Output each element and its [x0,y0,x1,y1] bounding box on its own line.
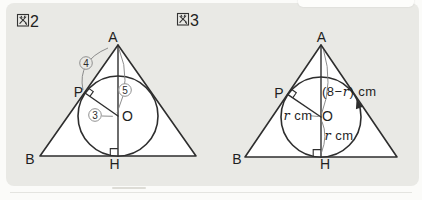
zu-kanji-icon [18,15,29,27]
circled-number-4: 4 [80,57,93,70]
circled-number-3: 3 [89,109,102,122]
figure2-diagram: 4 5 3 A P O B H [25,29,196,172]
vertex-label-b: B [232,151,241,167]
figure3-number: 3 [190,12,199,29]
textbook-geometry-panel: 2 4 5 3 A P [0,0,422,200]
vertex-label-p: P [274,85,283,101]
svg-text:5: 5 [122,85,128,96]
measure-oh-label: r cm [325,128,354,143]
vertex-label-p: P [74,84,83,100]
vertex-label-b: B [25,151,34,167]
zu-kanji-icon [178,14,189,26]
figures-drawing: 2 4 5 3 A P [0,0,422,200]
circled-number-5: 5 [119,84,132,97]
figure2-number: 2 [30,13,39,30]
measure-op-label: r cm [284,108,313,123]
vertex-label-o: O [322,108,333,124]
vertex-label-h: H [109,156,119,172]
figure3-diagram: (8−r) cm r cm r cm A P O B H [232,29,397,173]
svg-text:4: 4 [83,58,89,69]
figure2-caption: 2 [18,13,40,30]
figure3-caption: 3 [178,12,200,29]
svg-text:3: 3 [92,110,98,121]
vertex-label-a: A [108,29,118,45]
measure-ao-label: (8−r) cm [322,84,377,99]
vertex-label-h: H [320,156,330,172]
vertex-label-a: A [317,29,327,45]
vertex-label-o: O [122,108,133,124]
